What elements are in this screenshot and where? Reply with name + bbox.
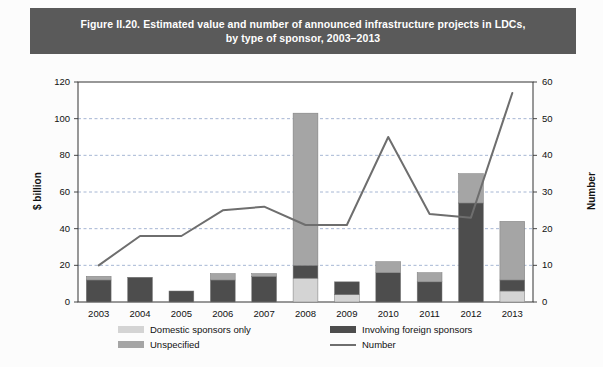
y-axis-right-tick: 30 [542,186,553,197]
figure-title-line-2: by type of sponsor, 2003–2013 [226,31,381,45]
y-axis-right-tick: 50 [542,113,553,124]
bar-segment [417,282,442,302]
y-axis-right-tick: 40 [542,149,553,160]
legend-item[interactable]: Domestic sponsors only [118,324,251,335]
figure-title-line-1: Figure II.20. Estimated value and number… [80,17,525,31]
bar-segment [334,282,359,295]
bar-segment [86,276,111,280]
bar-segment [334,295,359,302]
bar-segment [500,291,525,302]
legend-swatch-icon [118,326,144,333]
legend-item[interactable]: Involving foreign sponsors [330,324,472,335]
bar-segment [500,221,525,280]
bar-segment [417,273,442,282]
legend-swatch-icon [118,341,144,348]
y-axis-left-tick: 20 [0,259,70,270]
y-axis-left-tick: 80 [0,149,70,160]
y-axis-left-tick: 40 [0,223,70,234]
legend-line-icon [330,344,356,346]
y-axis-left-tick: 100 [0,113,70,124]
chart-svg [0,60,603,320]
bar-segment [252,276,277,302]
bar-segment [86,280,111,302]
y-axis-right-label: Number [586,172,597,210]
y-axis-right-tick: 0 [542,296,547,307]
bar-segment [252,274,277,277]
y-axis-right-tick: 60 [542,76,553,87]
legend-swatch-icon [330,326,356,333]
bar-segment [128,277,153,302]
y-axis-left-tick: 0 [0,296,70,307]
chart-legend: Domestic sponsors onlyInvolving foreign … [0,322,603,362]
bar-segment [376,273,401,302]
legend-item-label: Number [362,339,396,350]
bar-segment [376,262,401,273]
figure-title-bar: Figure II.20. Estimated value and number… [30,8,576,54]
y-axis-right-tick: 20 [542,223,553,234]
legend-item-label: Involving foreign sponsors [362,324,472,335]
bar-segment [169,291,194,302]
legend-item-label: Domestic sponsors only [150,324,251,335]
figure-panel: Figure II.20. Estimated value and number… [0,0,603,367]
bar-segment [293,265,318,278]
chart-plot-area: $ billion Number 02040608010012001020304… [0,60,603,320]
bar-segment [293,113,318,265]
y-axis-left-tick: 120 [0,76,70,87]
legend-item[interactable]: Unspecified [118,339,200,350]
bar-segment [293,278,318,302]
bar-segment [500,280,525,291]
bar-segment [210,280,235,302]
x-axis-tick: 2013 [488,308,536,319]
bar-segment [210,274,235,280]
legend-item[interactable]: Number [330,339,396,350]
legend-item-label: Unspecified [150,339,200,350]
y-axis-left-tick: 60 [0,186,70,197]
y-axis-right-tick: 10 [542,259,553,270]
